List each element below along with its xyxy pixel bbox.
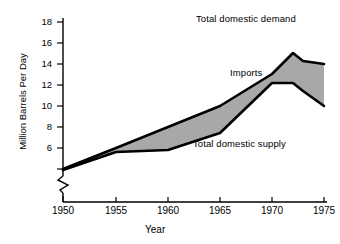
y-tick-label-8: 8 — [30, 122, 52, 132]
x-tick-label-1965: 1965 — [200, 206, 240, 216]
x-axis-title: Year — [145, 224, 165, 235]
x-tick-marks — [63, 196, 324, 202]
supply-series-label: Total domestic supply — [193, 139, 286, 149]
x-tick-label-1950: 1950 — [43, 206, 83, 216]
y-axis-title: Million Barrels Per Day — [17, 42, 28, 162]
y-tick-label-12: 12 — [30, 80, 52, 90]
y-tick-label-10: 10 — [30, 101, 52, 111]
y-tick-label-16: 16 — [30, 38, 52, 48]
x-tick-label-1975: 1975 — [304, 206, 340, 216]
y-axis-break-icon — [58, 176, 68, 193]
demand-series-label: Total domestic demand — [196, 14, 296, 24]
x-tick-label-1960: 1960 — [148, 206, 188, 216]
y-tick-label-18: 18 — [30, 17, 52, 27]
y-tick-marks — [57, 22, 63, 169]
x-tick-label-1970: 1970 — [252, 206, 292, 216]
imports-band-label: Imports — [230, 68, 262, 78]
y-tick-label-6: 6 — [30, 143, 52, 153]
y-tick-label-14: 14 — [30, 59, 52, 69]
x-tick-label-1955: 1955 — [96, 206, 136, 216]
